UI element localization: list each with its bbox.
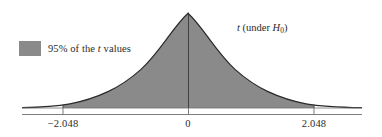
legend-swatch-shaded-region [19, 41, 41, 56]
legend: 95% of the t values [19, 41, 131, 56]
x-axis-label-zero: 0 [185, 119, 190, 130]
x-axis-label-negative-critical-value: −2.048 [48, 119, 79, 130]
annotation-close-text: ) [284, 22, 288, 33]
legend-label: 95% of the t values [48, 43, 131, 54]
legend-trailing-text: values [101, 43, 131, 54]
x-axis-label-positive-critical-value: 2.048 [302, 119, 327, 130]
annotation-open-text: (under [240, 22, 273, 33]
chart-plot-area [0, 0, 382, 137]
legend-percent: 95% [48, 43, 68, 54]
shaded-area-95-percent [22, 13, 362, 108]
t-distribution-chart: 95% of the t values t (under H0) −2.048 … [0, 0, 382, 137]
legend-middle-text: of the [68, 43, 98, 54]
curve-annotation-label: t (under H0) [237, 23, 287, 35]
